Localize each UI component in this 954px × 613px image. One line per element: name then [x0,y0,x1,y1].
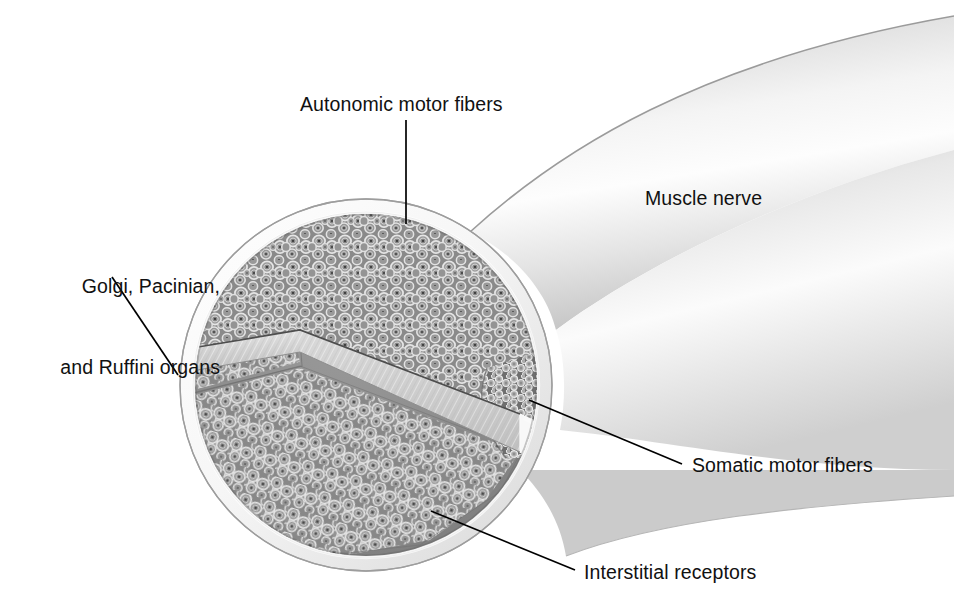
figure-canvas: Autonomic motor fibers Golgi, Pacinian, … [0,0,954,613]
label-golgi-line2: and Ruffini organs [10,354,220,381]
label-interstitial-receptors: Interstitial receptors [584,559,756,586]
label-somatic-motor-fibers: Somatic motor fibers [692,452,873,479]
label-autonomic-motor-fibers: Autonomic motor fibers [300,91,503,118]
label-muscle-nerve: Muscle nerve [645,185,762,212]
label-golgi-line1: Golgi, Pacinian, [10,273,220,300]
label-golgi-pacinian-ruffini: Golgi, Pacinian, and Ruffini organs [10,219,220,435]
